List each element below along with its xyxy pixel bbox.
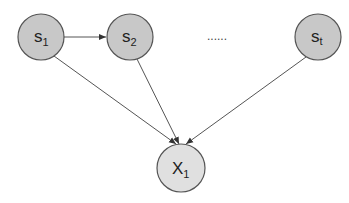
ellipsis: ...... xyxy=(207,29,227,43)
diagram-canvas: s1 s2 ...... st X1 xyxy=(0,0,349,203)
node-s1: s1 xyxy=(18,14,64,60)
edges xyxy=(54,37,306,144)
node-s2: s2 xyxy=(107,14,153,60)
node-x1: X1 xyxy=(157,144,205,192)
edge-st-x1 xyxy=(186,57,306,144)
node-st: st xyxy=(295,14,341,60)
